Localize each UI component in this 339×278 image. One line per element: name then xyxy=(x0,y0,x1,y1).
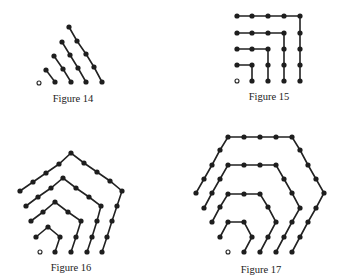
dot xyxy=(52,79,57,84)
dot xyxy=(234,46,239,51)
caption-figure-14: Figure 14 xyxy=(53,93,94,104)
dot xyxy=(257,162,262,167)
chain-line xyxy=(31,202,81,252)
dot xyxy=(209,190,214,195)
dot xyxy=(104,234,109,239)
dot xyxy=(241,162,246,167)
dot xyxy=(265,234,270,239)
dot xyxy=(94,169,99,174)
dot xyxy=(273,249,278,254)
dot xyxy=(265,204,270,209)
dot xyxy=(83,51,88,56)
dot xyxy=(43,67,48,72)
dot xyxy=(94,218,99,223)
dot xyxy=(265,13,270,18)
chain-line xyxy=(220,222,252,252)
dot xyxy=(234,30,239,35)
figure-17 xyxy=(193,134,326,254)
origin-open-dot xyxy=(235,79,239,83)
dot xyxy=(209,162,214,167)
dot xyxy=(217,234,222,239)
dot xyxy=(289,219,294,224)
dot xyxy=(83,79,88,84)
dot xyxy=(98,203,103,208)
dot xyxy=(52,249,57,254)
dot xyxy=(257,191,262,196)
origin-open-dot xyxy=(37,81,41,85)
dot xyxy=(225,134,230,139)
dot xyxy=(57,234,62,239)
dot xyxy=(225,162,230,167)
dot xyxy=(193,190,198,195)
dot xyxy=(73,185,78,190)
dot xyxy=(67,52,72,57)
dot xyxy=(297,46,302,51)
dot xyxy=(265,78,270,83)
dot xyxy=(241,134,246,139)
dot xyxy=(281,62,286,67)
chain-line xyxy=(36,227,60,252)
dot xyxy=(99,249,104,254)
figure-14 xyxy=(37,24,105,85)
caption-figure-16: Figure 16 xyxy=(51,262,92,273)
dot xyxy=(234,13,239,18)
dot xyxy=(225,191,230,196)
dot xyxy=(257,249,262,254)
origin-open-dot xyxy=(226,250,230,254)
dot xyxy=(35,194,40,199)
dot xyxy=(33,234,38,239)
dot xyxy=(60,175,65,180)
dot xyxy=(289,134,294,139)
dot xyxy=(60,66,65,71)
dot xyxy=(209,219,214,224)
dot xyxy=(30,179,35,184)
dot xyxy=(249,46,254,51)
caption-figure-15: Figure 15 xyxy=(249,91,290,102)
dot xyxy=(51,53,56,58)
dot xyxy=(249,13,254,18)
dot xyxy=(75,65,80,70)
dot xyxy=(241,191,246,196)
dot xyxy=(249,62,254,67)
dot xyxy=(289,190,294,195)
dot xyxy=(17,188,22,193)
figure-16 xyxy=(17,150,124,254)
dot xyxy=(305,219,310,224)
dot xyxy=(119,188,124,193)
dot xyxy=(297,13,302,18)
dot xyxy=(281,78,286,83)
dot xyxy=(114,203,119,208)
dot xyxy=(265,46,270,51)
chain-line xyxy=(26,178,101,252)
dot xyxy=(313,176,318,181)
dot xyxy=(217,176,222,181)
dot xyxy=(74,38,79,43)
dot xyxy=(86,194,91,199)
dot xyxy=(249,234,254,239)
dot xyxy=(297,30,302,35)
dot xyxy=(249,78,254,83)
dot xyxy=(289,249,294,254)
dot xyxy=(40,209,45,214)
chain-line xyxy=(237,33,284,81)
dot xyxy=(66,24,71,29)
dot xyxy=(217,147,222,152)
dot xyxy=(281,46,286,51)
dot xyxy=(52,199,57,204)
dot xyxy=(45,224,50,229)
dot xyxy=(273,134,278,139)
dot xyxy=(23,203,28,208)
dot xyxy=(273,162,278,167)
figures-canvas xyxy=(0,0,339,278)
dot xyxy=(297,234,302,239)
dot xyxy=(109,218,114,223)
dot xyxy=(73,234,78,239)
origin-open-dot xyxy=(38,250,42,254)
figure-15 xyxy=(234,13,302,83)
dot xyxy=(257,134,262,139)
chain-line xyxy=(237,65,252,81)
dot xyxy=(56,161,61,166)
dot xyxy=(89,234,94,239)
dot xyxy=(107,178,112,183)
dot xyxy=(81,160,86,165)
